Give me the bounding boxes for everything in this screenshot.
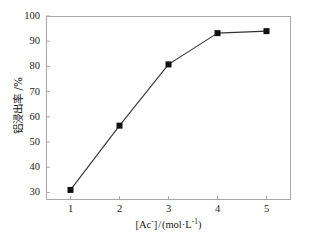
y-tick-label: 30 — [16, 187, 40, 197]
y-tick-label: 100 — [16, 11, 40, 21]
data-point — [68, 187, 74, 193]
y-tick-label: 40 — [16, 162, 40, 172]
data-point — [215, 30, 221, 36]
x-axis-title: [Ac-] / (mol·L-1) — [46, 216, 291, 230]
data-point — [166, 61, 172, 67]
data-markers — [68, 28, 270, 193]
y-tick-label: 90 — [16, 36, 40, 46]
data-point — [264, 28, 270, 34]
x-tick-label: 4 — [208, 204, 228, 214]
x-axis-title-text: [Ac-] / (mol·L-1) — [136, 219, 202, 230]
x-tick-label: 1 — [61, 204, 81, 214]
x-tick-label: 5 — [257, 204, 277, 214]
x-tick-label: 3 — [159, 204, 179, 214]
x-tick-label: 2 — [110, 204, 130, 214]
chart-container: 30405060708090100 12345 [Ac-] / (mol·L-1… — [0, 0, 317, 247]
data-line — [71, 31, 267, 190]
tick-marks — [46, 16, 267, 200]
data-point — [117, 123, 123, 129]
y-axis-title: 铝浸出率 /% — [10, 51, 25, 161]
